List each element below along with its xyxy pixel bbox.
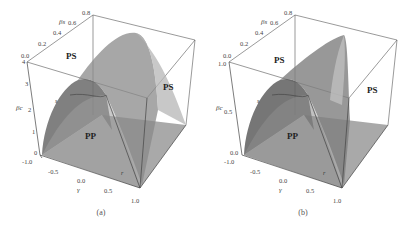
surface-plot-b: 0.0 0.2 0.4 0.6 0.8 βs 1.0 0.5 0.0 βc -1… [202,0,404,231]
bottom-tick-3: 0.5 [104,187,112,194]
v-tick-2: 2 [28,106,31,113]
region-ps-right: PS [367,85,378,95]
panel-a: 0.0 0.2 0.4 0.6 0.8 βs 4 3 2 1 0 βc -1.0… [0,0,202,231]
v-tick-4: 4 [22,58,26,65]
v-tick-0: 0 [34,149,37,156]
caption-b: (b) [202,208,404,217]
v-tick-1: 0.5 [224,108,232,115]
top-tick-3: 0.6 [68,19,77,26]
bottom-tick-4: 1.0 [131,197,139,204]
top-tick-3: 0.6 [270,19,279,26]
top-tick-0: 0.0 [223,52,231,59]
bottom-tick-4: 1.0 [333,197,341,204]
bottom-tick-1: -0.5 [48,168,58,175]
top-axis-label: βs [260,18,267,26]
v-tick-1: 1 [32,128,35,135]
top-tick-4: 0.8 [82,9,90,16]
region-pp: PP [85,131,96,141]
v-tick-0: 0.0 [230,149,238,156]
bottom-axis-label: γ [77,186,80,194]
bottom-tick-0: -1.0 [224,158,234,165]
top-tick-1: 0.2 [240,40,248,47]
region-ps-upper: PS [274,55,285,65]
top-axis-label: βs [58,18,65,26]
bottom-tick-2: 0.0 [279,177,287,184]
top-tick-2: 0.4 [255,29,264,36]
v-tick-3: 3 [25,80,28,87]
v-tick-2: 1.0 [218,60,226,67]
top-tick-2: 0.4 [53,29,62,36]
top-tick-1: 0.2 [38,40,46,47]
bottom-tick-2: 0.0 [77,177,85,184]
region-pp: PP [287,131,298,141]
bottom-tick-0: -1.0 [22,158,32,165]
panel-b: 0.0 0.2 0.4 0.6 0.8 βs 1.0 0.5 0.0 βc -1… [202,0,404,231]
bottom-axis-label: γ [279,186,282,194]
surface-plot-a: 0.0 0.2 0.4 0.6 0.8 βs 4 3 2 1 0 βc -1.0… [0,0,202,231]
bottom-tick-1: -0.5 [250,168,260,175]
top-tick-4: 0.8 [284,9,292,16]
region-ps-right: PS [163,82,174,92]
vertical-axis-label: βc [215,104,223,112]
vertical-axis-label: βc [15,104,23,112]
bottom-tick-3: 0.5 [306,187,314,194]
caption-a: (a) [0,208,202,217]
region-ps-upper: PS [66,51,77,61]
